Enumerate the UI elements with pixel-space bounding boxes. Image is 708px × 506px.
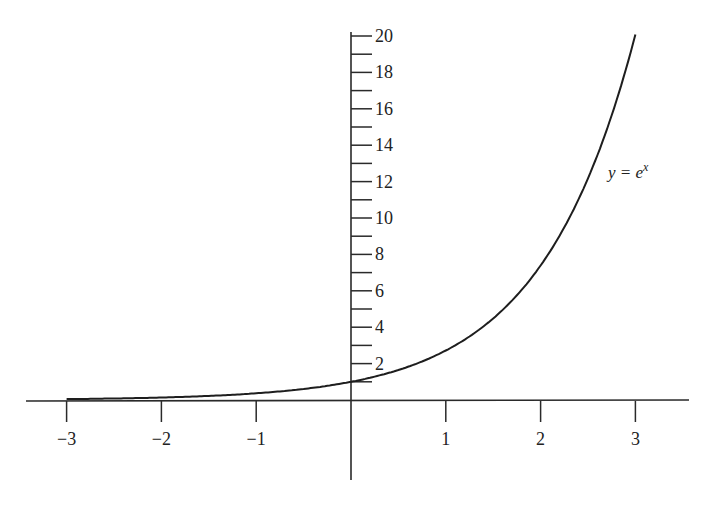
y-tick-label: 20 [375, 26, 393, 46]
y-tick-label: 14 [375, 135, 393, 155]
y-tick-label: 2 [375, 354, 384, 374]
y-tick-label: 16 [375, 99, 393, 119]
y-tick-label: 8 [375, 244, 384, 264]
x-tick-label: 3 [631, 429, 640, 449]
y-tick-label: 12 [375, 172, 393, 192]
exponential-chart: −3−2−1123 2468101214161820 y = ex [0, 0, 708, 506]
y-tick-label: 18 [375, 62, 393, 82]
y-tick-label: 6 [375, 281, 384, 301]
x-tick-label: 2 [536, 429, 545, 449]
x-ticks: −3−2−1123 [57, 401, 640, 449]
x-tick-label: −3 [57, 429, 76, 449]
y-ticks: 2468101214161820 [351, 26, 393, 382]
x-tick-label: 1 [441, 429, 450, 449]
x-tick-label: −2 [152, 429, 171, 449]
axes [26, 32, 689, 480]
curve-label-sup: x [642, 160, 649, 174]
y-tick-label: 4 [375, 317, 384, 337]
curve-label-main: y = e [606, 163, 644, 182]
x-axis [26, 400, 689, 401]
x-tick-label: −1 [247, 429, 266, 449]
curve-label: y = ex [606, 160, 649, 182]
y-tick-label: 10 [375, 208, 393, 228]
